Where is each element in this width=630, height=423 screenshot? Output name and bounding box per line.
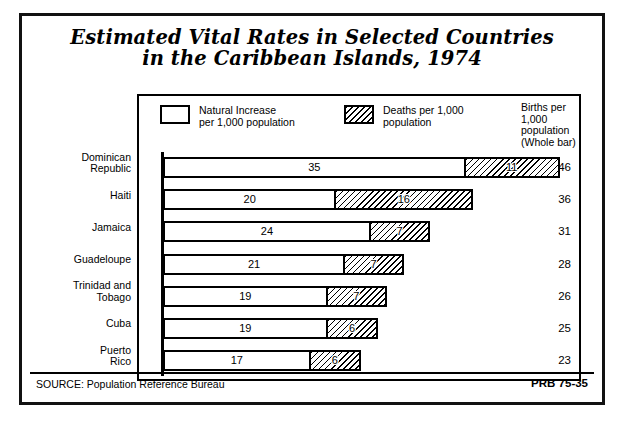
country-label: Guadeloupe	[22, 254, 131, 265]
bar-total-births: 36	[537, 189, 571, 210]
chart-bar-row: 17623	[139, 347, 579, 373]
title-line-2: in the Caribbean Islands, 1974	[22, 48, 602, 69]
bar-total-births: 23	[537, 350, 571, 371]
country-label: Puerto Rico	[22, 345, 131, 368]
bar-value-natural-increase: 21	[248, 259, 260, 270]
bar-segment-deaths: 7	[370, 221, 430, 242]
stacked-bar: 3511	[163, 157, 560, 178]
chart-bar-row: 19625	[139, 315, 579, 341]
bar-segment-natural-increase: 20	[163, 189, 335, 210]
bar-segment-natural-increase: 17	[163, 350, 310, 371]
bar-segment-deaths: 7	[344, 254, 404, 275]
bar-value-deaths: 6	[332, 355, 338, 366]
bar-segment-natural-increase: 24	[163, 221, 370, 242]
country-label: Haiti	[22, 190, 131, 201]
bar-total-births: 25	[537, 318, 571, 339]
bar-total-births: 31	[537, 221, 571, 242]
bar-segment-natural-increase: 19	[163, 286, 327, 307]
stacked-bar: 247	[163, 221, 430, 242]
chart-legend: Natural Increase per 1,000 population De…	[139, 96, 579, 152]
bar-value-deaths: 6	[349, 323, 355, 334]
legend-swatch-white-icon	[160, 105, 190, 124]
chart-bar-row: 351146	[139, 154, 579, 180]
country-label: Dominican Republic	[22, 152, 131, 175]
legend-swatch-hatched-icon	[344, 105, 374, 124]
bar-value-natural-increase: 17	[231, 355, 243, 366]
bar-segment-natural-increase: 19	[163, 318, 327, 339]
country-label-column: Dominican RepublicHaitiJamaicaGuadeloupe…	[22, 150, 135, 377]
bar-value-natural-increase: 19	[239, 323, 251, 334]
bar-value-natural-increase: 19	[239, 291, 251, 302]
stacked-bar: 196	[163, 318, 378, 339]
legend-label-deaths: Deaths per 1,000 population	[383, 105, 464, 128]
bar-segment-deaths: 6	[327, 318, 379, 339]
bar-segment-deaths: 7	[327, 286, 387, 307]
country-label: Trinidad and Tobago	[22, 280, 131, 303]
legend-item-deaths: Deaths per 1,000 population	[344, 105, 464, 128]
bar-total-births: 46	[537, 157, 571, 178]
country-label: Jamaica	[22, 222, 131, 233]
bar-value-natural-increase: 20	[244, 194, 256, 205]
stacked-bar: 2016	[163, 189, 473, 210]
chart-bar-row: 21728	[139, 251, 579, 277]
poster-frame: Estimated Vital Rates in Selected Countr…	[19, 13, 605, 405]
legend-label-natural-increase: Natural Increase per 1,000 population	[199, 105, 295, 128]
bar-segment-deaths: 16	[335, 189, 473, 210]
bar-segment-natural-increase: 21	[163, 254, 344, 275]
bar-value-deaths: 11	[506, 162, 517, 173]
stacked-bar: 217	[163, 254, 404, 275]
publication-code: PRB 75-35	[531, 377, 588, 389]
chart-footer: SOURCE: Population Reference Bureau PRB …	[22, 372, 602, 394]
chart-panel: Natural Increase per 1,000 population De…	[137, 94, 581, 381]
bar-total-births: 28	[537, 254, 571, 275]
bar-value-natural-increase: 35	[308, 162, 320, 173]
legend-item-natural-increase: Natural Increase per 1,000 population	[160, 105, 295, 128]
bar-value-deaths: 7	[353, 291, 359, 302]
chart-bar-row: 19726	[139, 283, 579, 309]
source-note: SOURCE: Population Reference Bureau	[36, 378, 225, 390]
bar-total-births: 26	[537, 286, 571, 307]
country-label: Cuba	[22, 318, 131, 329]
births-column-header: Births per 1,000 population (Whole bar)	[521, 102, 576, 148]
bar-segment-natural-increase: 35	[163, 157, 465, 178]
title-line-1: Estimated Vital Rates in Selected Countr…	[70, 26, 554, 49]
bar-value-natural-increase: 24	[261, 226, 273, 237]
stacked-bar: 176	[163, 350, 361, 371]
plot-area: 3511462016362473121728197261962517623	[139, 152, 579, 379]
chart-bar-row: 24731	[139, 218, 579, 244]
bar-value-deaths: 16	[398, 194, 410, 205]
stacked-bar: 197	[163, 286, 387, 307]
bar-segment-deaths: 6	[310, 350, 362, 371]
chart-bar-row: 201636	[139, 186, 579, 212]
page-title: Estimated Vital Rates in Selected Countr…	[22, 16, 602, 69]
footer-divider	[30, 372, 594, 374]
bar-value-deaths: 7	[396, 226, 402, 237]
bar-value-deaths: 7	[371, 259, 377, 270]
